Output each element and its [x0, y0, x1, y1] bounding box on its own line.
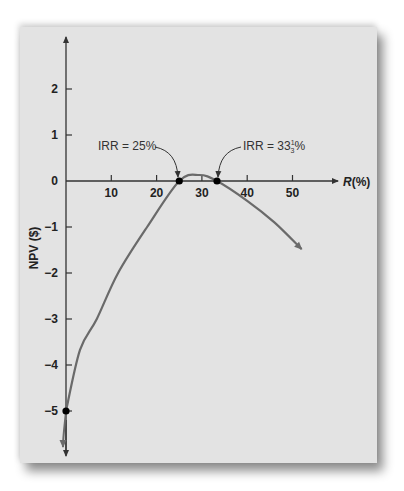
- highlight-points: [62, 177, 220, 414]
- x-ticks: 1020304050: [105, 175, 300, 200]
- data-point: [213, 177, 220, 184]
- x-tick-label: 20: [150, 186, 164, 200]
- y-axis-label: NPV ($): [27, 227, 41, 270]
- data-point: [176, 177, 183, 184]
- y-tick-label: −3: [44, 312, 58, 326]
- y-tick-label: 0: [51, 174, 58, 188]
- irr25-leader-arrow: [155, 147, 178, 177]
- irr33-annotation: IRR = 3313%: [243, 139, 306, 154]
- x-tick-label: 50: [286, 186, 300, 200]
- y-ticks: 210−1−2−3−4−5: [44, 82, 72, 418]
- y-tick-label: −4: [44, 358, 58, 372]
- irr25-annotation: IRR = 25%: [98, 139, 157, 153]
- y-tick-label: 2: [51, 82, 58, 96]
- x-tick-label: 10: [105, 186, 119, 200]
- y-tick-label: 1: [51, 128, 58, 142]
- npv-curve: [66, 175, 302, 411]
- irr33-leader-arrow: [218, 147, 241, 177]
- npv-chart: 1020304050 210−1−2−3−4−5 R(%) NPV ($) IR…: [0, 0, 404, 491]
- y-tick-label: −2: [44, 266, 58, 280]
- y-tick-label: −1: [44, 220, 58, 234]
- y-tick-label: −5: [44, 404, 58, 418]
- x-axis-label: R(%): [343, 175, 370, 189]
- x-tick-label: 30: [195, 186, 209, 200]
- data-point: [62, 407, 69, 414]
